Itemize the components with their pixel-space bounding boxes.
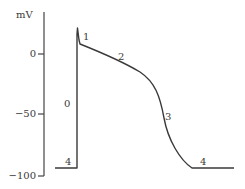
- action-potential-trace: [55, 28, 234, 168]
- phase-label-0: 0: [64, 98, 70, 109]
- phase-label-4-left: 4: [65, 156, 71, 167]
- y-axis-unit-label: mV: [16, 9, 33, 20]
- y-tick-label-minus50: −50: [15, 108, 36, 119]
- phase-label-3: 3: [165, 111, 171, 122]
- phase-label-1: 1: [83, 31, 89, 42]
- phase-label-2: 2: [118, 51, 124, 62]
- y-tick-label-minus100: −100: [9, 170, 36, 181]
- action-potential-chart: mV 0 −50 −100 0 1 2 3 4 4: [0, 0, 245, 189]
- phase-label-4-right: 4: [200, 156, 206, 167]
- y-tick-label-0: 0: [30, 48, 36, 59]
